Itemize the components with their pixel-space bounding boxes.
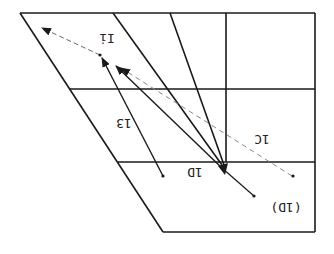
label-1d: 1D [187, 165, 203, 180]
labels: Ii 13 1C 1D (1D) [99, 31, 301, 215]
label-1c: 1C [254, 132, 270, 147]
vector-1c [121, 68, 292, 176]
point-ii [98, 53, 101, 56]
label-ii: Ii [99, 31, 115, 46]
point-13 [161, 174, 164, 177]
vector-ii [42, 28, 100, 55]
point-1c [291, 174, 294, 177]
outer-frame [20, 13, 315, 232]
left-slanted-edge [20, 13, 163, 232]
vectors [42, 28, 295, 198]
label-1d-paren: (1D) [270, 200, 301, 215]
vector-diagram: Ii 13 1C 1D (1D) [0, 0, 334, 254]
vector-1d [222, 168, 254, 196]
label-13: 13 [116, 116, 132, 131]
point-1d [252, 194, 255, 197]
